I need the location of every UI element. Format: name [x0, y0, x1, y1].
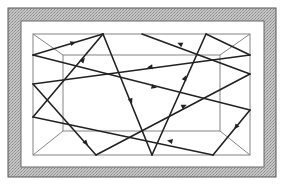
ray-reflection-diagram [0, 0, 283, 184]
frame-inner [21, 21, 264, 167]
diagram-stage [0, 0, 283, 184]
